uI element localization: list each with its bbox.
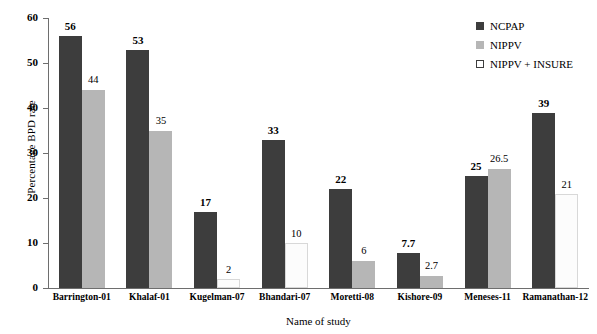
bar-value-label: 33 [268, 125, 279, 136]
legend-swatch-icon [476, 22, 484, 30]
legend-swatch-icon [476, 60, 484, 68]
bar-group: 172 [183, 18, 251, 288]
bar-value-label: 26.5 [490, 154, 508, 165]
bar-value-label: 25 [471, 161, 482, 172]
bar-group-bars: 7.72.7 [386, 18, 454, 288]
y-axis-tick-label: 40 [4, 102, 38, 113]
bar-group: 3310 [251, 18, 319, 288]
x-axis-category-label: Kishore-09 [386, 293, 454, 303]
x-axis-category-label: Meneses-11 [454, 293, 522, 303]
bar-group: 7.72.7 [386, 18, 454, 288]
bar[interactable]: 21 [555, 194, 578, 289]
bar[interactable]: 26.5 [488, 169, 511, 288]
bar-value-label: 35 [156, 116, 167, 127]
bar-value-label: 44 [88, 75, 99, 86]
bar-value-label: 2 [226, 265, 231, 276]
bar-value-label: 6 [361, 246, 366, 257]
y-axis-tick-label: 20 [4, 192, 38, 203]
x-axis-category-label: Bhandari-07 [251, 293, 319, 303]
x-axis-title: Name of study [48, 315, 589, 327]
y-axis-tick-label: 30 [4, 147, 38, 158]
bar-group-bars: 3310 [251, 18, 319, 288]
bar[interactable]: 10 [285, 243, 308, 288]
bar[interactable]: 33 [262, 140, 285, 289]
bar-value-label: 56 [65, 21, 76, 32]
bar-group-bars: 5644 [48, 18, 116, 288]
bar-group: 5335 [116, 18, 184, 288]
bar[interactable]: 17 [194, 212, 217, 289]
bar-chart: Percentage BPD rate 0102030405060 564453… [0, 0, 597, 334]
legend-swatch-icon [476, 41, 484, 49]
x-axis-category-label: Khalaf-01 [116, 293, 184, 303]
bar[interactable]: 7.7 [397, 253, 420, 288]
x-axis-category-label: Moretti-08 [319, 293, 387, 303]
bar-value-label: 39 [538, 98, 549, 109]
bar[interactable]: 22 [329, 189, 352, 288]
x-axis-category-label: Ramanathan-12 [521, 293, 589, 303]
legend-item[interactable]: NIPPV [476, 35, 573, 54]
bar[interactable]: 44 [82, 90, 105, 288]
bar[interactable]: 35 [149, 131, 172, 289]
bar[interactable]: 39 [532, 113, 555, 289]
y-axis-tick-label: 0 [4, 282, 38, 293]
bar-value-label: 21 [561, 180, 572, 191]
bar[interactable]: 2.7 [420, 276, 443, 288]
y-axis-tick-label: 50 [4, 57, 38, 68]
bar-value-label: 10 [291, 229, 302, 240]
chart-legend: NCPAPNIPPVNIPPV + INSURE [476, 16, 573, 73]
bar-group-bars: 5335 [116, 18, 184, 288]
bar[interactable]: 25 [465, 176, 488, 289]
bar-group-bars: 226 [319, 18, 387, 288]
bar[interactable]: 6 [352, 261, 375, 288]
bar-value-label: 2.7 [425, 261, 438, 272]
legend-label: NIPPV + INSURE [490, 58, 573, 70]
legend-item[interactable]: NIPPV + INSURE [476, 54, 573, 73]
x-axis-line [48, 288, 589, 289]
bar-value-label: 17 [200, 197, 211, 208]
bar[interactable]: 56 [59, 36, 82, 288]
y-axis-tick-label: 10 [4, 237, 38, 248]
legend-label: NCPAP [490, 20, 524, 32]
y-axis-tick-label: 60 [4, 12, 38, 23]
legend-label: NIPPV [490, 39, 522, 51]
bar-group-bars: 172 [183, 18, 251, 288]
bar-group: 226 [319, 18, 387, 288]
x-axis-category-label: Barrington-01 [48, 293, 116, 303]
bar-value-label: 22 [335, 174, 346, 185]
bar-value-label: 53 [132, 35, 143, 46]
bar[interactable]: 2 [217, 279, 240, 288]
bar-value-label: 7.7 [402, 238, 416, 249]
bar-group: 5644 [48, 18, 116, 288]
legend-item[interactable]: NCPAP [476, 16, 573, 35]
bar[interactable]: 53 [126, 50, 149, 289]
x-axis-category-label: Kugelman-07 [183, 293, 251, 303]
